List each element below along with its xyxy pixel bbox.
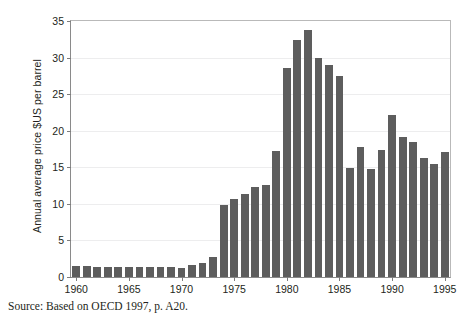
bar	[388, 115, 396, 277]
y-axis-title: Annual average price $US per barrel	[31, 21, 43, 271]
bar	[399, 137, 407, 277]
y-tick-label: 5	[58, 234, 64, 246]
y-tick-label: 15	[52, 161, 64, 173]
y-tick-label: 25	[52, 88, 64, 100]
y-tick-label: 35	[52, 15, 64, 27]
bar	[378, 150, 386, 277]
bar	[325, 65, 333, 277]
x-tick-mark	[182, 277, 183, 281]
bar	[357, 147, 365, 277]
bar	[83, 266, 91, 277]
bar	[430, 164, 438, 277]
bar	[220, 205, 228, 277]
bar	[283, 68, 291, 277]
y-tick-mark	[67, 277, 71, 278]
x-tick-label: 1990	[380, 283, 403, 295]
bar	[241, 194, 249, 277]
x-tick-label: 1965	[117, 283, 140, 295]
bar	[315, 58, 323, 277]
x-tick-mark	[287, 277, 288, 281]
bar	[304, 30, 312, 277]
x-tick-label: 1975	[222, 283, 245, 295]
bar	[188, 265, 196, 277]
bar	[167, 267, 175, 277]
bar	[251, 187, 259, 277]
bar	[272, 151, 280, 277]
bar	[104, 267, 112, 277]
figure-container: Annual average price $US per barrel 0510…	[0, 0, 457, 322]
bar	[136, 267, 144, 277]
x-tick-mark	[445, 277, 446, 281]
x-tick-mark	[76, 277, 77, 281]
bar	[157, 267, 165, 277]
source-note: Source: Based on OECD 1997, p. A20.	[8, 300, 188, 312]
bar	[409, 142, 417, 277]
bar	[114, 267, 122, 277]
bar	[420, 158, 428, 277]
plot-area: 05101520253035 1960196519701975198019851…	[70, 20, 451, 278]
x-tick-mark	[392, 277, 393, 281]
bar-series	[71, 21, 450, 277]
bar	[293, 40, 301, 277]
x-tick-mark	[234, 277, 235, 281]
bar	[346, 168, 354, 277]
bar	[199, 263, 207, 277]
x-tick-label: 1980	[275, 283, 298, 295]
bar	[72, 266, 80, 277]
y-tick-label: 10	[52, 198, 64, 210]
bar	[441, 152, 449, 277]
y-tick-label: 0	[58, 271, 64, 283]
x-tick-label: 1985	[328, 283, 351, 295]
x-tick-label: 1960	[65, 283, 88, 295]
bar	[367, 169, 375, 277]
x-tick-mark	[339, 277, 340, 281]
bar	[230, 199, 238, 277]
bar	[209, 257, 217, 277]
bar	[262, 185, 270, 277]
bar	[125, 267, 133, 277]
bar	[93, 267, 101, 277]
bar	[146, 267, 154, 277]
y-tick-label: 20	[52, 125, 64, 137]
x-tick-mark	[129, 277, 130, 281]
x-tick-label: 1970	[170, 283, 193, 295]
y-tick-label: 30	[52, 52, 64, 64]
bar	[336, 76, 344, 277]
bar	[178, 268, 186, 278]
x-tick-label: 1995	[433, 283, 456, 295]
clipped-title-strip	[0, 0, 457, 7]
